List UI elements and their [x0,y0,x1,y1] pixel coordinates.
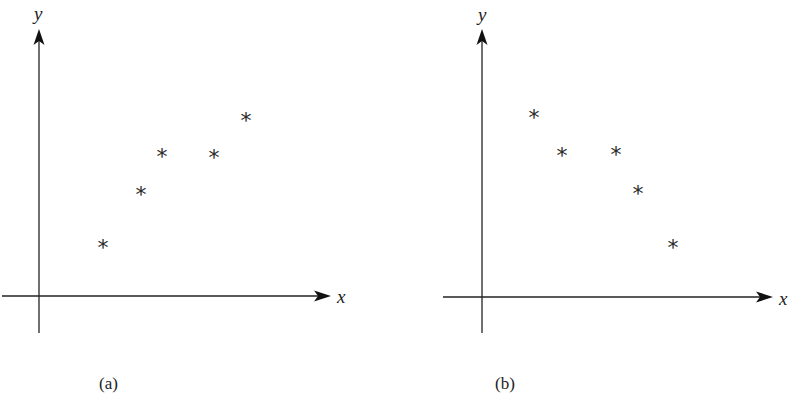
panel-a-y-axis-label: y [32,3,43,24]
data-point-star-icon: * [136,182,147,207]
panel-b-caption: (b) [495,374,515,393]
data-point-star-icon: * [241,108,252,133]
data-point-star-icon: * [157,144,168,169]
data-point-star-icon: * [557,143,568,168]
data-point-star-icon: * [611,142,622,167]
panel-a-x-axis-label: x [336,286,346,307]
panel-a-increasing-scatter: x y ***** (a) [2,3,346,393]
panel-b-data-points: ***** [529,105,679,260]
panel-b-y-axis-label: y [476,4,487,25]
data-point-star-icon: * [529,105,540,130]
scatter-figure: x y ***** (a) x y ***** (b) [0,0,799,417]
panel-a-data-points: ***** [98,108,252,260]
panel-b-x-axis-label: x [778,288,788,309]
panel-a-caption: (a) [99,374,118,393]
data-point-star-icon: * [633,181,644,206]
data-point-star-icon: * [98,235,109,260]
data-point-star-icon: * [668,235,679,260]
data-point-star-icon: * [209,145,220,170]
panel-b-decreasing-scatter: x y ***** (b) [443,4,788,393]
